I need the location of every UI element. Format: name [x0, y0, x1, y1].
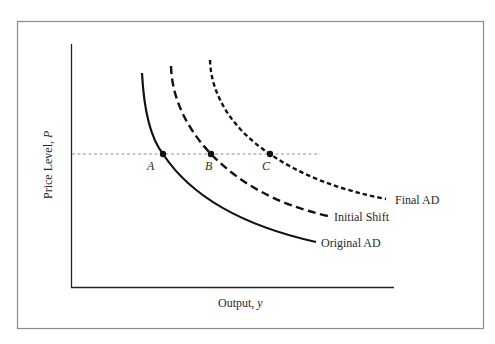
point-c-label: C	[262, 159, 271, 173]
x-axis-title: Output, y	[218, 296, 263, 310]
point-b-label: B	[205, 159, 213, 173]
x-axis-label-text: Output,	[218, 296, 257, 310]
x-axis-variable: y	[256, 296, 263, 310]
initial-shift-curve	[171, 66, 328, 216]
y-axis-variable: P	[41, 130, 55, 139]
point-b-marker	[208, 151, 214, 157]
y-axis-title: Price Level, P	[41, 130, 55, 199]
original-ad-label: Original AD	[321, 236, 381, 250]
aggregate-demand-diagram: A B C Final AD Initial Shift Original AD…	[0, 0, 495, 344]
point-a-label: A	[146, 159, 155, 173]
figure-frame	[18, 22, 484, 329]
original-ad-curve	[142, 73, 316, 242]
point-a-marker	[160, 151, 166, 157]
point-c-marker	[267, 151, 273, 157]
final-ad-label: Final AD	[395, 193, 440, 207]
y-axis-label-text: Price Level,	[41, 138, 55, 199]
final-ad-curve	[210, 60, 386, 199]
initial-shift-label: Initial Shift	[334, 210, 390, 224]
